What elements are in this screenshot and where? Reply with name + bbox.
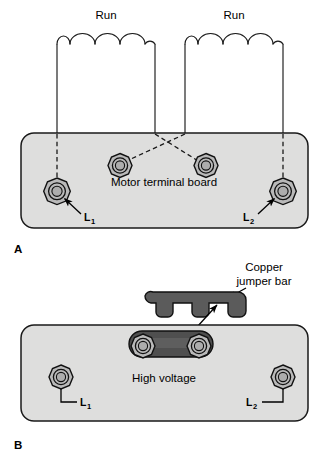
- terminal-nut-b-mid-right[interactable]: [187, 334, 211, 358]
- winding-right: [185, 34, 283, 135]
- l1-label-a: L: [84, 211, 91, 223]
- l2-label-b: L: [246, 396, 253, 408]
- copper-jumper-callout-line2: jumper bar: [236, 275, 292, 287]
- motor-terminal-board-figure: Run Run Motor terminal board: [0, 0, 329, 461]
- l2-sub-a: 2: [250, 217, 254, 226]
- winding-left: [57, 34, 155, 135]
- run-label-left: Run: [95, 9, 116, 21]
- terminal-nut-a-l2[interactable]: [270, 178, 297, 205]
- terminal-nut-b-l2[interactable]: [271, 365, 295, 389]
- copper-jumper-bar-loose[interactable]: [145, 292, 246, 317]
- panel-a: Run Run Motor terminal board: [14, 9, 308, 255]
- terminal-nut-a-mid-left[interactable]: [108, 154, 132, 178]
- terminal-nut-b-mid-left[interactable]: [131, 334, 155, 358]
- terminal-nut-a-mid-right[interactable]: [194, 154, 218, 178]
- l1-sub-a: 1: [91, 217, 95, 226]
- motor-terminal-board-label: Motor terminal board: [111, 176, 217, 188]
- panel-label-a: A: [14, 243, 22, 255]
- l2-label-a: L: [243, 211, 250, 223]
- figure-canvas: Run Run Motor terminal board: [0, 0, 329, 461]
- copper-jumper-callout-line1: Copper: [245, 261, 283, 273]
- l2-sub-b: 2: [253, 402, 257, 411]
- l1-sub-b: 1: [87, 402, 91, 411]
- run-label-right: Run: [223, 9, 244, 21]
- panel-label-b: B: [14, 439, 22, 451]
- terminal-nut-b-l1[interactable]: [49, 365, 73, 389]
- panel-b: Copper jumper bar: [14, 261, 308, 451]
- high-voltage-label: High voltage: [132, 372, 196, 384]
- l1-label-b: L: [80, 396, 87, 408]
